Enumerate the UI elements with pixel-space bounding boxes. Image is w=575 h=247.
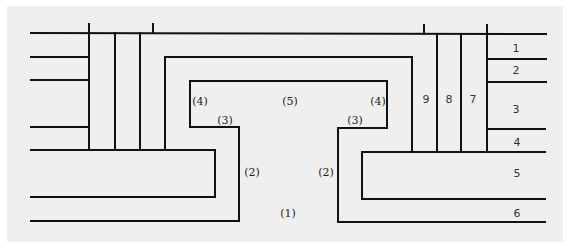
region-label-2-right: (2): [318, 166, 334, 179]
region-label-3-right: (3): [347, 114, 363, 127]
layer-number-5: 5: [514, 167, 521, 180]
region-label-4-left: (4): [192, 95, 208, 108]
diagram-canvas: (1) (2) (2) (3) (3) (4) (4) (5) 1 2 3 4 …: [0, 0, 575, 247]
layer-number-4: 4: [514, 136, 521, 149]
left-lower-block: [31, 150, 215, 197]
region-label-3-left: (3): [217, 114, 233, 127]
layer-number-9: 9: [423, 93, 430, 106]
region-label-4-right: (4): [370, 95, 386, 108]
region-label-5: (5): [282, 95, 298, 108]
region-label-1: (1): [280, 207, 296, 220]
layer-number-3: 3: [513, 103, 520, 116]
layer-number-8: 8: [446, 93, 453, 106]
layer-number-6: 6: [514, 207, 521, 220]
region-label-2-left: (2): [244, 166, 260, 179]
layer-number-1: 1: [513, 42, 520, 55]
layer-number-2: 2: [513, 64, 520, 77]
top-layer-line: [31, 33, 546, 34]
layer-number-7: 7: [470, 93, 477, 106]
